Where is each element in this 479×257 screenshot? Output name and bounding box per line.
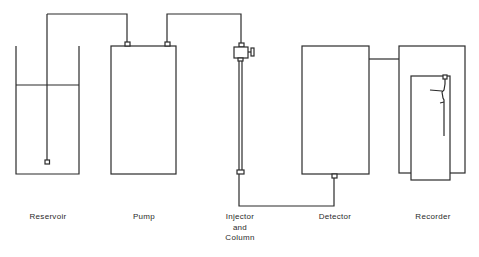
recorder-pen-holder bbox=[443, 75, 447, 79]
pump-inlet-port bbox=[125, 42, 130, 46]
label-injector-line1: Injector bbox=[210, 212, 270, 223]
label-injector-line2: and bbox=[210, 223, 270, 234]
label-injector-line3: Column bbox=[210, 233, 270, 244]
injector-column bbox=[234, 43, 254, 174]
tube-pump-injector bbox=[167, 14, 241, 43]
injector-block bbox=[234, 47, 248, 58]
label-reservoir: Reservoir bbox=[12, 212, 84, 223]
recorder bbox=[399, 46, 465, 180]
pump-outlet-port bbox=[165, 42, 170, 46]
tube-column-detector bbox=[239, 174, 334, 206]
inlet-filter bbox=[45, 160, 50, 164]
label-detector: Detector bbox=[303, 212, 367, 223]
reservoir bbox=[16, 14, 79, 174]
label-pump: Pump bbox=[118, 212, 170, 223]
detector-inlet-port bbox=[332, 174, 337, 178]
injector-knob bbox=[251, 48, 254, 56]
tube-reservoir-pump bbox=[47, 14, 127, 43]
label-recorder: Recorder bbox=[403, 212, 463, 223]
column-outlet-fitting bbox=[237, 170, 244, 174]
detector bbox=[302, 46, 369, 178]
label-injector-column: Injector and Column bbox=[210, 212, 270, 244]
pump bbox=[111, 42, 176, 174]
